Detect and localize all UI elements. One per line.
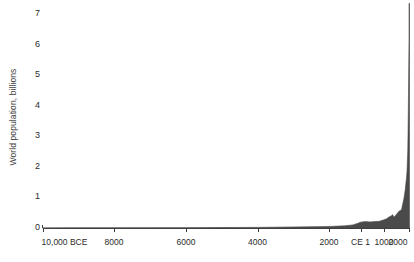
world-population-chart: World population, billions 01234567 10,0… <box>0 0 414 262</box>
population-area-series <box>0 0 414 262</box>
